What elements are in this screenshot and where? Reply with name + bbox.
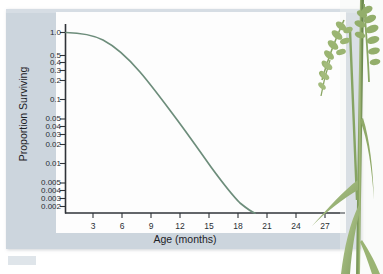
- x-tick-label: 15: [204, 222, 213, 231]
- plant-illustration: [300, 0, 383, 274]
- plant-seed-head: [317, 60, 334, 96]
- x-tick-label: 21: [262, 222, 271, 231]
- x-tick-label: 12: [175, 222, 184, 231]
- x-axis-title: Age (months): [60, 233, 310, 245]
- figure-root: 1.0 0.5 0.4 0.3 0.2 0.1 0.05 0.04 0.03 0…: [0, 0, 383, 274]
- plant-photo: [300, 0, 383, 274]
- y-axis-title: Proportion Surviving: [17, 49, 29, 179]
- x-tick-label: 9: [149, 222, 154, 231]
- x-tick-label: 3: [91, 222, 96, 231]
- x-tick-label: 18: [233, 222, 242, 231]
- x-tick-label: 6: [120, 222, 125, 231]
